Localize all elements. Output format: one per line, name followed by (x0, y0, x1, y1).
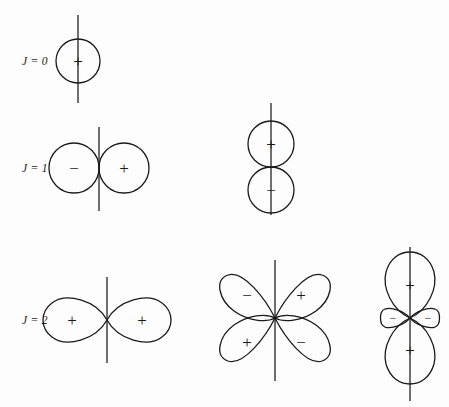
sign-plus-bottom: + (405, 341, 415, 360)
sign-minus-right: − (425, 311, 432, 325)
diagram-j2-cloverleaf-quadrupole: − + + − (220, 260, 331, 381)
diagram-j2-dz2-quadrupole: + + − − (381, 247, 440, 401)
diagram-j0-monopole: + (56, 15, 100, 103)
figure-canvas: J = 0 J = 1 J = 2 + − + + − (0, 0, 449, 407)
sign-plus: + (73, 52, 83, 71)
row-label-j1: J = 1 (22, 162, 48, 174)
sign-minus: − (266, 181, 276, 200)
row-label-j0: J = 0 (22, 55, 48, 67)
sign-minus-upper-left: − (242, 286, 252, 305)
sign-plus-left: + (67, 311, 77, 330)
diagram-j1-horizontal-dipole: − + (49, 127, 149, 211)
sign-plus-right: + (137, 311, 147, 330)
diagram-j1-vertical-dipole: + − (248, 103, 294, 215)
diagram-j2-horizontal-quadrupole: + + (43, 277, 171, 363)
sign-minus-lower-right: − (296, 333, 306, 352)
sign-minus: − (69, 159, 79, 178)
sign-plus: + (266, 135, 276, 154)
sign-plus: + (119, 159, 129, 178)
sign-plus-upper-right: + (296, 286, 306, 305)
sign-minus-left: − (390, 311, 397, 325)
sign-plus-lower-left: + (242, 333, 252, 352)
sign-plus-top: + (405, 276, 415, 295)
multipole-diagram-figure: J = 0 J = 1 J = 2 + − + + − (0, 0, 449, 407)
